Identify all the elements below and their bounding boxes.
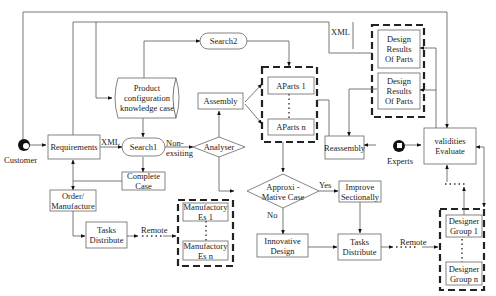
reassembly-node[interactable]: Reassembly — [325, 136, 364, 159]
edge-label-no: No — [267, 210, 277, 220]
search1-node[interactable]: Search1 — [122, 138, 165, 156]
approximative-node[interactable]: Approxi - Mative Case — [255, 182, 311, 202]
customer-icon — [18, 139, 30, 151]
experts-icon — [393, 140, 405, 152]
improve-node[interactable]: Improve Sectionally — [339, 181, 381, 202]
aparts-1-node[interactable]: AParts 1 — [268, 77, 314, 94]
knowledge-case-node[interactable]: Product configuration knowledge case — [116, 78, 178, 118]
validities-node[interactable]: validities Evaluate — [424, 128, 476, 164]
design-results-1-node[interactable]: Design Results Of Parts — [378, 30, 420, 68]
edge-label-remote-left: Remote — [141, 225, 167, 235]
order-manufacture-node[interactable]: Order/ Manufacture — [50, 190, 96, 211]
manufactory-1-node[interactable]: Manufactory Es 1 — [183, 203, 228, 221]
manufactory-n-node[interactable]: Manufactory Es n — [183, 241, 228, 260]
aparts-n-node[interactable]: AParts n — [268, 119, 314, 135]
edge-label-remote-right: Remote — [400, 237, 426, 247]
designer-group-1-node[interactable]: Designer Group 1 — [446, 215, 482, 237]
edge-label-non-existing: Non- exsiting — [166, 138, 193, 158]
flow-diagram: Customer Requirements Search2 Search1 Pr… — [0, 0, 496, 296]
edge-label-yes: Yes — [319, 180, 331, 190]
design-results-2-node[interactable]: Design Results Of Parts — [378, 73, 420, 109]
customer-label: Customer — [4, 155, 37, 165]
tasks-distribute-left-node[interactable]: Tasks Distribute — [86, 222, 127, 248]
search2-node[interactable]: Search2 — [200, 33, 247, 49]
edge-label-xml-top: XML — [331, 27, 350, 37]
requirements-node[interactable]: Requirements — [48, 135, 100, 159]
complete-case-node[interactable]: Complete Case — [122, 172, 165, 190]
innovative-node[interactable]: Innovative Design — [257, 234, 308, 257]
tasks-distribute-right-node[interactable]: Tasks Distribute — [338, 234, 381, 260]
designer-group-n-node[interactable]: Designer Group n — [446, 262, 482, 285]
experts-label: Experts — [387, 156, 413, 166]
assembly-node[interactable]: Assembly — [198, 93, 243, 109]
edge-label-xml-left: XML — [101, 137, 120, 147]
analyser-node[interactable]: Analyser — [199, 141, 239, 153]
